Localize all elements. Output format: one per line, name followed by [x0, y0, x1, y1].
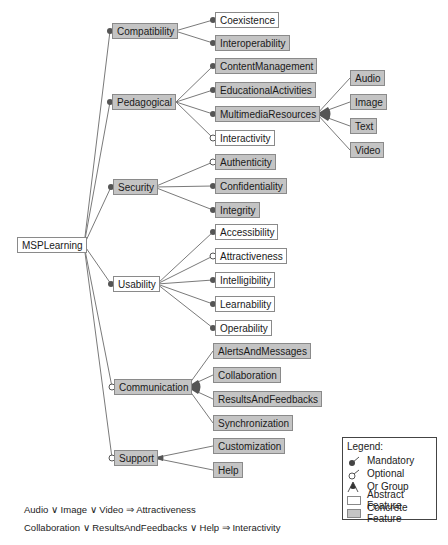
- feature-usability[interactable]: Usability: [113, 276, 160, 292]
- concrete-feature-icon: [347, 507, 363, 519]
- cross-tree-constraints: Audio ∨ Image ∨ Video ⇒ Attractiveness C…: [24, 501, 280, 537]
- feature-synchronization[interactable]: Synchronization: [213, 415, 293, 431]
- feature-pedagogical[interactable]: Pedagogical: [112, 94, 176, 110]
- feature-alertsandmessages[interactable]: AlertsAndMessages: [213, 343, 311, 359]
- feature-integrity[interactable]: Integrity: [215, 202, 260, 218]
- feature-coexistence[interactable]: Coexistence: [215, 12, 279, 28]
- feature-authenticity[interactable]: Authenticity: [215, 154, 276, 170]
- feature-image[interactable]: Image: [350, 94, 387, 110]
- feature-attractiveness[interactable]: Attractiveness: [215, 248, 287, 264]
- legend: Legend: Mandatory Optional Or Group Abst…: [342, 437, 437, 520]
- abstract-feature-icon: [347, 494, 363, 506]
- constraint-2: Collaboration ∨ ResultsAndFeedbacks ∨ He…: [24, 519, 280, 537]
- legend-item-optional: Optional: [347, 467, 432, 480]
- feature-support[interactable]: Support: [114, 450, 158, 466]
- mandatory-icon: [347, 455, 363, 467]
- feature-customization[interactable]: Customization: [213, 438, 285, 454]
- feature-accessibility[interactable]: Accessibility: [215, 224, 278, 240]
- feature-operability[interactable]: Operability: [215, 320, 272, 336]
- feature-interactivity[interactable]: Interactivity: [215, 130, 275, 146]
- feature-help[interactable]: Help: [213, 462, 243, 478]
- feature-security[interactable]: Security: [113, 179, 158, 195]
- feature-text[interactable]: Text: [350, 118, 377, 134]
- feature-root[interactable]: MSPLearning: [17, 237, 87, 253]
- feature-compatibility[interactable]: Compatibility: [112, 23, 178, 39]
- constraint-1: Audio ∨ Image ∨ Video ⇒ Attractiveness: [24, 501, 280, 519]
- legend-item-concrete: Concrete Feature: [347, 506, 432, 519]
- feature-confidentiality[interactable]: Confidentiality: [215, 178, 287, 194]
- feature-audio[interactable]: Audio: [350, 70, 385, 86]
- feature-resultsandfeedbacks[interactable]: ResultsAndFeedbacks: [213, 391, 322, 407]
- feature-collaboration[interactable]: Collaboration: [213, 367, 281, 383]
- legend-item-mandatory: Mandatory: [347, 454, 432, 467]
- or-group-icon: [347, 481, 363, 493]
- feature-contentmanagement[interactable]: ContentManagement: [215, 58, 317, 74]
- feature-communication[interactable]: Communication: [114, 379, 192, 395]
- feature-video[interactable]: Video: [350, 142, 384, 158]
- optional-icon: [347, 468, 363, 480]
- feature-interoperability[interactable]: Interoperability: [215, 35, 290, 51]
- feature-learnability[interactable]: Learnability: [215, 296, 275, 312]
- feature-intelligibility[interactable]: Intelligibility: [215, 272, 275, 288]
- legend-title: Legend:: [347, 441, 432, 452]
- feature-educationalactivities[interactable]: EducationalActivities: [215, 82, 316, 98]
- feature-multimediaresources[interactable]: MultimediaResources: [215, 106, 320, 122]
